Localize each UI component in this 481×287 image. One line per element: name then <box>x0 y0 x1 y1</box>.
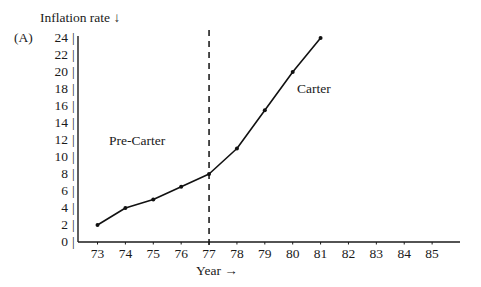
axis-lines <box>78 36 460 242</box>
data-point <box>319 36 323 40</box>
data-point <box>235 147 239 151</box>
data-point <box>123 206 127 210</box>
inflation-rate-chart: (A) Inflation rate ↓ Year → Pre-Carter C… <box>0 0 481 287</box>
data-point <box>151 198 155 202</box>
data-point <box>291 70 295 74</box>
data-point <box>263 108 267 112</box>
plot-area <box>0 0 481 287</box>
data-point <box>179 185 183 189</box>
data-point <box>207 172 211 176</box>
data-point <box>96 223 100 227</box>
